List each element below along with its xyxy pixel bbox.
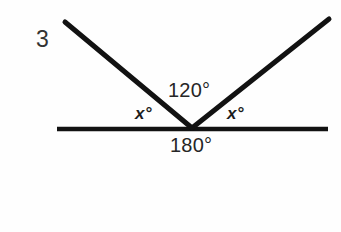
angle-diagram: 3 120° x° x° 180° xyxy=(0,0,341,232)
label-interior-angle: 120° xyxy=(168,80,210,100)
label-straight-angle: 180° xyxy=(170,135,212,155)
vertex-point xyxy=(190,126,195,131)
ray-right xyxy=(192,19,329,128)
label-x-left: x° xyxy=(135,105,152,122)
label-x-right: x° xyxy=(227,105,244,122)
problem-number: 3 xyxy=(36,28,49,51)
ray-left xyxy=(65,22,192,128)
geometry-figure xyxy=(0,0,341,232)
